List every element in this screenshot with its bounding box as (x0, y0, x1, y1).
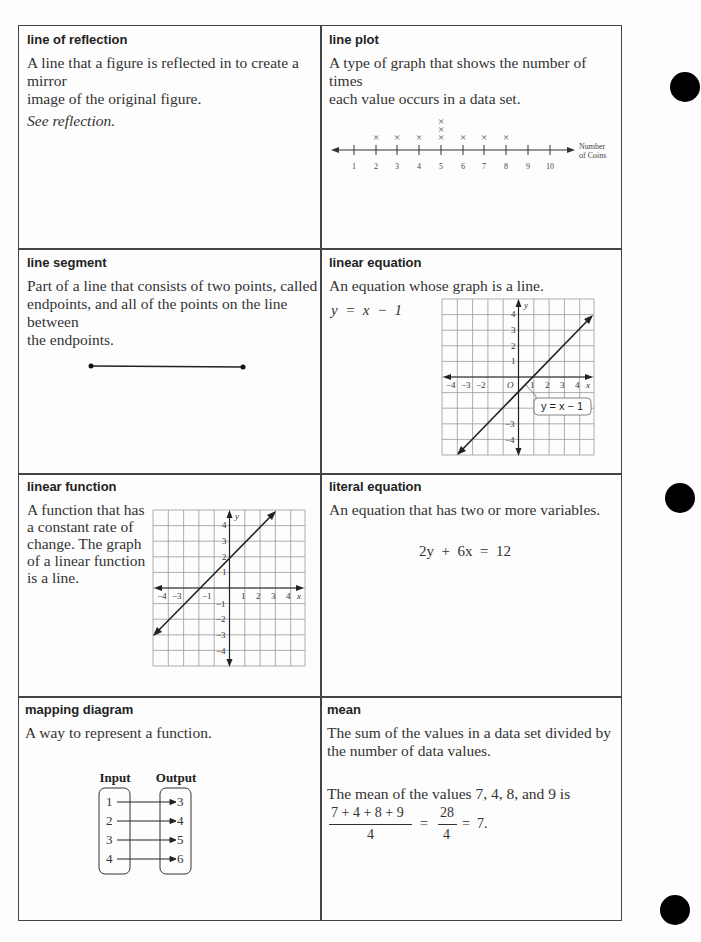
entry-definition: The sum of the values in a data set divi… (327, 724, 617, 760)
svg-text:2: 2 (256, 591, 261, 601)
entry-linear-function: linear function A function that has a co… (19, 474, 320, 696)
svg-text:3: 3 (222, 536, 227, 546)
output-header: Output (156, 770, 197, 785)
svg-text:y: y (523, 300, 528, 310)
data-markers: × × × × × × × × × (373, 115, 509, 143)
tick-label: 5 (439, 162, 443, 171)
tick-label: 8 (504, 162, 508, 171)
tick-label: 4 (417, 162, 421, 171)
svg-text:−3: −3 (216, 630, 226, 640)
entry-term: linear equation (329, 255, 421, 270)
svg-text:−3: −3 (172, 591, 182, 601)
axis-label: of Coins (579, 151, 606, 160)
svg-text:1: 1 (241, 591, 246, 601)
svg-text:×: × (416, 131, 422, 143)
definition-line: a constant rate of (27, 518, 157, 535)
svg-text:y: y (234, 511, 239, 521)
binder-hole-icon (660, 895, 690, 925)
entry-mapping-diagram: mapping diagram A way to represent a fun… (19, 697, 320, 920)
entry-term: mapping diagram (25, 702, 133, 717)
definition-line: The sum of the values in a data set divi… (327, 724, 617, 742)
entry-line-plot: line plot A type of graph that shows the… (321, 26, 621, 248)
definition-line: An equation that has two or more variabl… (329, 501, 600, 519)
svg-text:2: 2 (511, 341, 516, 351)
svg-text:−4: −4 (446, 380, 456, 390)
svg-text:×: × (460, 131, 466, 143)
definition-line: A line that a figure is reflected in to … (27, 54, 317, 90)
svg-text:2: 2 (106, 813, 113, 828)
svg-text:4: 4 (222, 520, 227, 530)
svg-text:×: × (394, 131, 400, 143)
svg-text:4: 4 (177, 813, 184, 828)
entry-line-of-reflection: line of reflection A line that a figure … (19, 26, 320, 248)
tick-label: 9 (526, 162, 530, 171)
line-plot-figure: 1 2 3 4 5 6 7 8 9 10 Number of Coins × (321, 106, 621, 186)
svg-text:O: O (507, 380, 514, 390)
entry-definition: A line that a figure is reflected in to … (27, 54, 317, 108)
svg-text:4: 4 (511, 309, 516, 319)
glossary-table: line of reflection A line that a figure … (18, 25, 622, 921)
binder-hole-icon (670, 72, 700, 102)
entry-mean: mean The sum of the values in a data set… (321, 697, 621, 920)
svg-text:−3: −3 (505, 419, 515, 429)
glossary-page: line of reflection A line that a figure … (0, 0, 701, 942)
definition-line: endpoints, and all of the points on the … (27, 295, 319, 331)
entry-definition: A function that has a constant rate of c… (27, 501, 157, 586)
tick-label: 3 (395, 162, 399, 171)
entry-term: literal equation (329, 479, 421, 494)
svg-text:3: 3 (511, 325, 516, 335)
svg-text:−4: −4 (505, 435, 515, 445)
entry-definition: Part of a line that consists of two poin… (27, 277, 319, 349)
definition-line: change. The graph (27, 535, 157, 552)
svg-text:1: 1 (222, 567, 227, 577)
svg-text:5: 5 (177, 832, 184, 847)
svg-text:−3: −3 (461, 380, 471, 390)
svg-text:2: 2 (545, 380, 550, 390)
svg-text:−2: −2 (476, 380, 486, 390)
example-intro: The mean of the values 7, 4, 8, and 9 is (327, 785, 570, 803)
definition-line: is a line. (27, 569, 157, 586)
linear-equation-graph: −4 −3 −2 O 1 2 3 4 x 4 3 2 1 −3 −4 y (441, 298, 596, 458)
tick-label: 6 (461, 162, 465, 171)
svg-text:3: 3 (106, 832, 113, 847)
svg-text:6: 6 (177, 851, 184, 866)
entry-literal-equation: literal equation An equation that has tw… (321, 474, 621, 696)
definition-line: the number of data values. (327, 742, 617, 760)
line-segment-figure (19, 349, 319, 389)
entry-term: line plot (329, 32, 379, 47)
definition-line: A type of graph that shows the number of… (329, 54, 619, 90)
definition-line: Part of a line that consists of two poin… (27, 277, 319, 295)
svg-text:1: 1 (106, 794, 113, 809)
svg-text:−1: −1 (202, 591, 212, 601)
tick-label: 10 (546, 162, 554, 171)
entry-definition: A type of graph that shows the number of… (329, 54, 619, 108)
svg-text:−4: −4 (216, 646, 226, 656)
entry-term: line of reflection (27, 32, 127, 47)
entry-definition: An equation whose graph is a line. (329, 277, 544, 295)
svg-text:4: 4 (575, 380, 580, 390)
definition-line: image of the original figure. (27, 90, 317, 108)
svg-text:−1: −1 (216, 599, 226, 609)
example-equation: y = x − 1 (331, 302, 402, 319)
svg-text:3: 3 (271, 591, 276, 601)
svg-text:x: x (585, 380, 590, 390)
entry-definition: An equation that has two or more variabl… (329, 501, 600, 519)
see-also-reference: See reflection. (27, 112, 115, 130)
callout-label: y = x − 1 (541, 400, 583, 412)
binder-hole-icon (665, 483, 695, 513)
axis-label: Number (579, 142, 606, 151)
definition-line: of a linear function (27, 552, 157, 569)
svg-text:1: 1 (530, 380, 535, 390)
svg-text:x: x (296, 591, 301, 601)
tick-label: 7 (482, 162, 486, 171)
svg-text:2: 2 (222, 552, 227, 562)
input-header: Input (99, 770, 131, 785)
svg-text:×: × (373, 131, 379, 143)
linear-function-graph: −4 −3 −1 1 2 3 4 x 4 3 2 1 −1 −2 −3 −4 y (152, 509, 307, 669)
svg-text:×: × (481, 131, 487, 143)
svg-text:−2: −2 (216, 614, 226, 624)
svg-text:1: 1 (511, 356, 516, 366)
mapping-diagram-figure: Input Output 1 2 3 4 3 4 5 6 (89, 769, 219, 889)
svg-text:4: 4 (286, 591, 291, 601)
definition-line: the endpoints. (27, 331, 319, 349)
